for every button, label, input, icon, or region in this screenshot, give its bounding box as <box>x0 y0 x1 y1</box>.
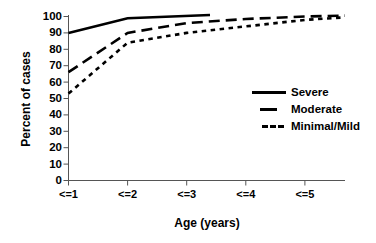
legend-label: Minimal/Mild <box>291 120 360 132</box>
series-line-minimal-mild <box>69 17 346 93</box>
y-tick-label: 30 <box>34 126 62 136</box>
x-tick-label: <=4 <box>221 188 271 200</box>
y-tick-label: 50 <box>34 93 62 103</box>
legend-line-solid-icon <box>252 87 286 97</box>
chart-legend: Severe Moderate Minimal/Mild <box>252 84 376 135</box>
y-axis-tick-labels: 100 90 80 70 60 50 40 30 20 10 0 <box>30 0 62 243</box>
y-tick-label: 20 <box>34 142 62 152</box>
x-axis-title: Age (years) <box>68 216 346 230</box>
legend-item-minimal-mild: Minimal/Mild <box>252 118 376 134</box>
legend-item-moderate: Moderate <box>252 101 376 117</box>
legend-line-dashed-icon <box>252 104 286 114</box>
chart-figure: 100 90 80 70 60 50 40 30 20 10 0 <=1 <=2… <box>0 0 376 243</box>
y-tick-label: 90 <box>34 27 62 37</box>
legend-line-dotted-icon <box>252 121 286 131</box>
x-tick-label: <=3 <box>162 188 212 200</box>
legend-label: Severe <box>291 86 329 98</box>
y-tick-label: 60 <box>34 77 62 87</box>
series-line-severe <box>69 15 211 33</box>
legend-item-severe: Severe <box>252 84 376 100</box>
x-tick-label: <=5 <box>280 188 330 200</box>
y-tick-label: 100 <box>34 11 62 21</box>
y-axis-title: Percent of cases <box>19 29 33 169</box>
x-axis-ticks <box>69 181 305 186</box>
legend-label: Moderate <box>291 103 342 115</box>
series-line-moderate <box>69 16 346 73</box>
y-tick-label: 80 <box>34 44 62 54</box>
y-tick-label: 70 <box>34 60 62 70</box>
y-tick-label: 10 <box>34 159 62 169</box>
x-tick-label: <=1 <box>44 188 94 200</box>
x-tick-label: <=2 <box>103 188 153 200</box>
y-axis-ticks <box>64 17 69 181</box>
y-tick-label: 40 <box>34 109 62 119</box>
y-tick-label: 0 <box>34 175 62 185</box>
